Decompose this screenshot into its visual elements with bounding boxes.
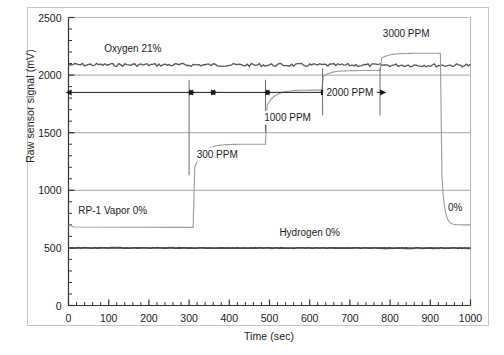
chart-figure: Raw sensor signal (mV) Time (sec) 050010… — [0, 0, 504, 355]
series-line — [69, 248, 471, 249]
annotation-label: 2000 PPM — [327, 87, 374, 98]
x-axis-title: Time (sec) — [68, 330, 470, 342]
y-tick-label: 1500 — [38, 127, 62, 139]
x-tick-label: 0 — [66, 312, 72, 324]
chart-canvas: 0500100015002000250001002003004005006007… — [0, 0, 504, 355]
annotation-label: 0% — [448, 202, 463, 213]
x-tick-label: 1000 — [459, 312, 483, 324]
annotation-label: 1000 PPM — [264, 112, 311, 123]
axis-tick-labels: 0500100015002000250001002003004005006007… — [38, 12, 482, 324]
x-tick-label: 900 — [422, 312, 440, 324]
annotation-label: 3000 PPM — [383, 28, 430, 39]
y-axis-title: Raw sensor signal (mV) — [24, 31, 36, 181]
annotation-label: RP-1 Vapor 0% — [78, 205, 147, 216]
series-line — [69, 63, 471, 67]
axis-ticks — [69, 18, 471, 306]
series-step-line — [69, 53, 471, 227]
y-tick-label: 1000 — [38, 184, 62, 196]
x-tick-label: 600 — [301, 312, 319, 324]
y-tick-label: 0 — [56, 300, 62, 312]
plot-frame — [69, 18, 471, 306]
x-tick-label: 200 — [140, 312, 158, 324]
x-tick-label: 700 — [341, 312, 359, 324]
data-series — [69, 53, 471, 248]
x-tick-label: 100 — [100, 312, 118, 324]
annotation-label: Oxygen 21% — [104, 43, 161, 54]
x-tick-label: 300 — [180, 312, 198, 324]
y-tick-label: 500 — [44, 242, 62, 254]
x-tick-label: 500 — [261, 312, 279, 324]
annotation-label: 300 PPM — [197, 149, 238, 160]
y-tick-label: 2000 — [38, 69, 62, 81]
annotation-label: Hydrogen 0% — [279, 227, 340, 238]
x-tick-label: 400 — [221, 312, 239, 324]
y-tick-label: 2500 — [38, 12, 62, 24]
x-tick-label: 800 — [381, 312, 399, 324]
figure-border — [28, 8, 489, 326]
